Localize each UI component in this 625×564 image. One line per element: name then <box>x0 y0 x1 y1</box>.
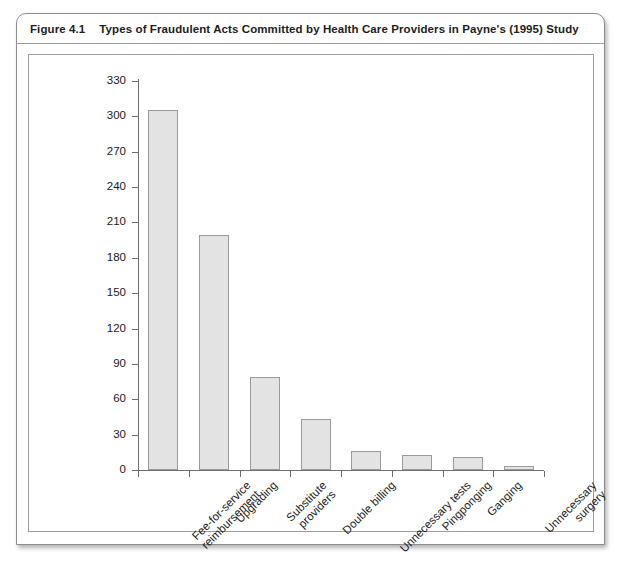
x-tick <box>189 471 190 477</box>
bars-layer <box>138 55 544 471</box>
x-tick <box>392 471 393 477</box>
x-tick <box>138 471 139 477</box>
bar <box>504 466 534 470</box>
x-tick <box>544 471 545 477</box>
y-tick-label: 240 <box>107 180 126 192</box>
x-tick <box>290 471 291 477</box>
y-tick-label: 300 <box>107 109 126 121</box>
bar <box>301 419 331 470</box>
bar-chart: 0306090120150180210240270300330 Fee-for-… <box>29 55 593 531</box>
figure-caption: Types of Fraudulent Acts Committed by He… <box>85 23 578 35</box>
bar <box>199 235 229 470</box>
figure-card: Figure 4.1 Types of Fraudulent Acts Comm… <box>16 13 605 545</box>
bar <box>351 451 381 470</box>
y-tick-label: 210 <box>107 215 126 227</box>
x-axis-label-line: Double billing <box>340 479 397 536</box>
plot-panel: 0306090120150180210240270300330 Fee-for-… <box>28 54 594 532</box>
x-axis-label: Unnecessarysurgery <box>542 479 608 545</box>
y-tick-label: 120 <box>107 322 126 334</box>
y-tick-label: 60 <box>113 392 126 404</box>
x-tick <box>493 471 494 477</box>
x-axis-labels: Fee-for-servicereimbursementUpgradingSub… <box>138 479 544 533</box>
x-tick <box>341 471 342 477</box>
x-axis-label: Double billing <box>340 479 398 537</box>
figure-number: Figure 4.1 <box>17 23 85 35</box>
x-tick <box>443 471 444 477</box>
bar <box>250 377 280 470</box>
y-tick-label: 330 <box>107 74 126 86</box>
bar <box>453 457 483 470</box>
y-tick-label: 150 <box>107 286 126 298</box>
figure-page: Figure 4.1 Types of Fraudulent Acts Comm… <box>0 0 625 564</box>
y-tick-label: 0 <box>120 463 126 475</box>
bar <box>402 455 432 470</box>
x-axis-label: Substituteproviders <box>284 479 339 534</box>
y-tick-label: 90 <box>113 357 126 369</box>
figure-title-bar: Figure 4.1 Types of Fraudulent Acts Comm… <box>17 14 604 44</box>
bar <box>148 110 178 470</box>
y-tick-label: 270 <box>107 145 126 157</box>
x-tick <box>240 471 241 477</box>
y-tick-label: 30 <box>113 428 126 440</box>
y-tick-label: 180 <box>107 251 126 263</box>
